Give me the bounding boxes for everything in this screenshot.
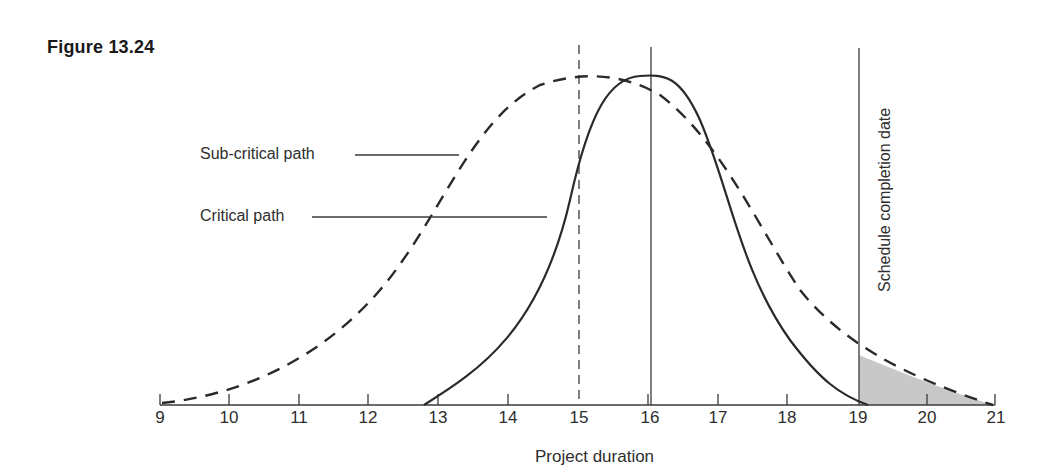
x-axis-label: Project duration bbox=[535, 447, 654, 467]
x-tick-label: 16 bbox=[641, 408, 660, 428]
sub-critical-path-label: Sub-critical path bbox=[200, 145, 315, 163]
critical-path-label: Critical path bbox=[200, 207, 284, 225]
x-tick-label: 13 bbox=[429, 408, 448, 428]
distribution-chart bbox=[0, 0, 1057, 472]
x-tick-label: 17 bbox=[709, 408, 728, 428]
schedule-completion-label: Schedule completion date bbox=[876, 108, 894, 292]
x-tick-label: 21 bbox=[987, 408, 1006, 428]
sub-critical-path-curve bbox=[162, 76, 993, 405]
x-tick-label: 19 bbox=[849, 408, 868, 428]
x-tick-label: 10 bbox=[220, 408, 239, 428]
x-tick-label: 18 bbox=[778, 408, 797, 428]
x-tick-label: 12 bbox=[359, 408, 378, 428]
x-tick-label: 15 bbox=[570, 408, 589, 428]
x-tick-label: 20 bbox=[918, 408, 937, 428]
x-tick-label: 9 bbox=[155, 408, 164, 428]
x-tick-label: 14 bbox=[499, 408, 518, 428]
x-tick-label: 11 bbox=[290, 408, 308, 428]
